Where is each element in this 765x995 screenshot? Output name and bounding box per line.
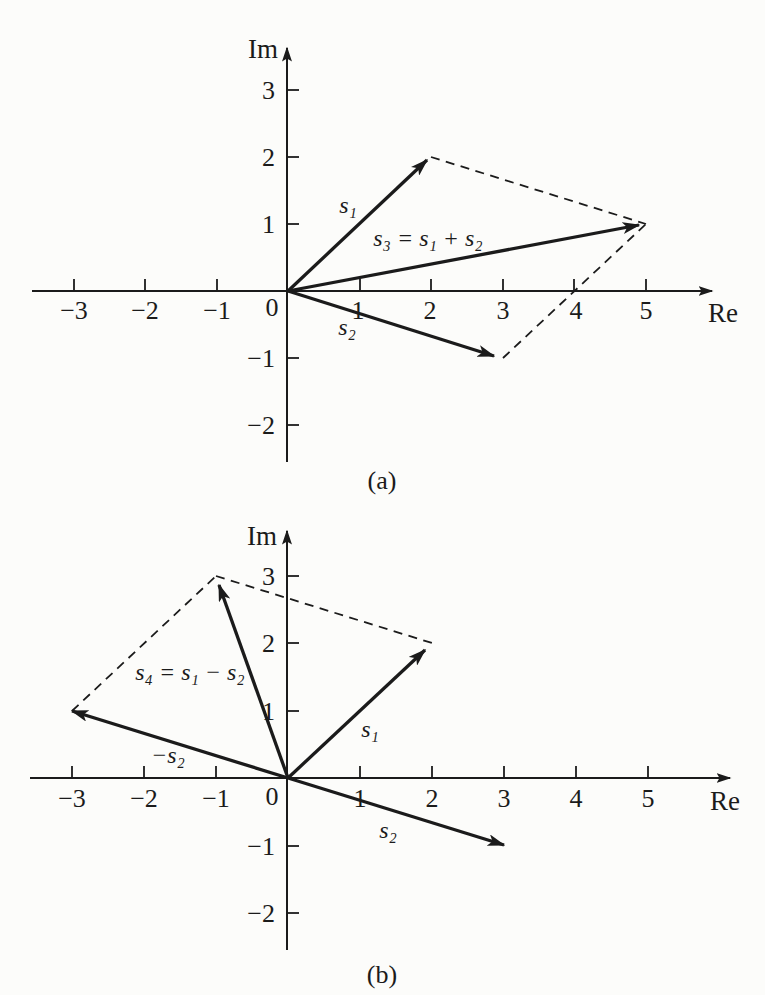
- x-tick-label: −3: [60, 296, 88, 325]
- complex-plane-figure: Im Re 0 −3 −2 −1 1 2 3 4 5 3 2 1 −1 −2 s…: [0, 0, 765, 995]
- y-axis-label: Im: [248, 34, 278, 64]
- dashed-parallelogram-edge: [431, 157, 646, 224]
- figure-page: Im Re 0 −3 −2 −1 1 2 3 4 5 3 2 1 −1 −2 s…: [0, 0, 765, 995]
- origin-label: 0: [266, 293, 279, 322]
- x-tick-label: 5: [640, 296, 653, 325]
- vector-neg-s2-label: −s₂: [151, 742, 185, 768]
- dashed-parallelogram-edge: [216, 576, 432, 643]
- y-tick-label: 1: [262, 210, 275, 239]
- x-tick-label: 2: [424, 296, 437, 325]
- panel-b-caption: (b): [367, 960, 397, 989]
- y-tick-label: 1: [262, 697, 275, 726]
- y-axis-label: Im: [247, 521, 277, 551]
- x-tick-label: −2: [131, 296, 159, 325]
- y-tick-label: −2: [247, 411, 275, 440]
- x-tick-label: −2: [130, 784, 158, 813]
- x-tick-label: −3: [58, 784, 86, 813]
- y-tick-label: −2: [247, 899, 275, 928]
- x-axis-label: Re: [710, 786, 740, 816]
- y-tick-label: 3: [262, 562, 275, 591]
- y-tick-label: −1: [247, 344, 275, 373]
- vector-s1-label: s₁: [361, 716, 379, 742]
- vector-s2: [288, 291, 494, 356]
- x-tick-label: −1: [202, 784, 230, 813]
- x-tick-label: 3: [498, 784, 511, 813]
- panel-a: Im Re 0 −3 −2 −1 1 2 3 4 5 3 2 1 −1 −2 s…: [32, 34, 738, 495]
- dashed-parallelogram-edge: [72, 576, 216, 711]
- y-tick-label: 3: [262, 76, 275, 105]
- y-tick-label: 2: [262, 143, 275, 172]
- x-tick-label: 2: [426, 784, 439, 813]
- vector-s1-label: s₁: [339, 192, 357, 218]
- x-tick-label: 1: [354, 784, 367, 813]
- x-tick-label: 4: [570, 296, 583, 325]
- y-tick-label: −1: [247, 832, 275, 861]
- panel-b: Im Re 0 −3 −2 −1 1 2 3 4 5 3 2 1 −1 −2 s…: [30, 521, 740, 989]
- vector-s3-equation-label: s₃ = s₁ + s₂: [373, 225, 482, 251]
- x-axis-label: Re: [708, 298, 738, 328]
- vector-s2-label: s₂: [379, 817, 397, 843]
- y-tick-label: 2: [262, 629, 275, 658]
- x-tick-label: 4: [570, 784, 583, 813]
- origin-label: 0: [266, 782, 279, 811]
- panel-a-caption: (a): [368, 466, 397, 495]
- vector-s4-equation-label: s₄ = s₁ − s₂: [135, 659, 244, 685]
- vector-s1: [288, 650, 425, 778]
- x-tick-label: −1: [203, 296, 231, 325]
- x-tick-label: 5: [642, 784, 655, 813]
- x-tick-label: 3: [497, 296, 510, 325]
- vector-s2-label: s₂: [338, 314, 356, 340]
